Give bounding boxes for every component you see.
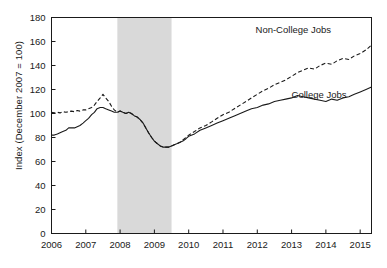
x-tick-label: 2010: [178, 239, 199, 250]
x-tick-label: 2012: [247, 239, 268, 250]
x-tick-label: 2006: [41, 239, 62, 250]
chart-figure: Index (December 2007 = 100) 020406080100…: [0, 0, 387, 268]
y-tick-label: 20: [35, 204, 46, 215]
x-tick-label: 2013: [281, 239, 302, 250]
x-tick-label: 2011: [213, 239, 233, 250]
y-tick-label: 60: [35, 156, 46, 167]
line-chart-plot: 0204060801001201401601802006200720082009…: [0, 0, 387, 268]
y-tick-label: 0: [40, 228, 45, 239]
x-tick-label: 2014: [315, 239, 336, 250]
y-tick-label: 160: [30, 36, 46, 47]
series-annotation-non_college: Non-College Jobs: [256, 24, 332, 35]
x-tick-label: 2015: [350, 239, 371, 250]
y-tick-label: 120: [30, 84, 46, 95]
x-tick-label: 2009: [144, 239, 165, 250]
series-annotation-college: College Jobs: [292, 89, 347, 100]
y-tick-label: 180: [30, 12, 46, 23]
y-tick-label: 140: [30, 60, 46, 71]
y-tick-label: 100: [30, 108, 46, 119]
y-tick-label: 80: [35, 132, 46, 143]
x-tick-label: 2008: [110, 239, 131, 250]
y-tick-label: 40: [35, 180, 46, 191]
x-tick-label: 2007: [75, 239, 96, 250]
